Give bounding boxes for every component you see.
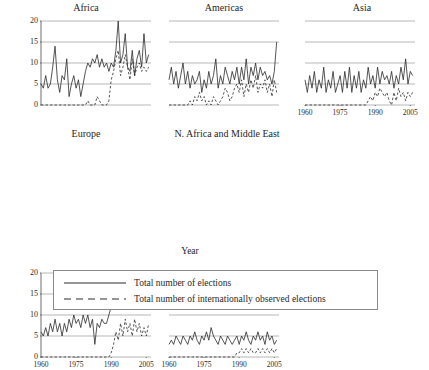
plot-area-africa xyxy=(40,20,152,106)
panel-americas: Americas xyxy=(160,2,288,118)
x-tick-label: 2005 xyxy=(267,360,282,369)
y-tick-label: 5 xyxy=(34,332,38,340)
panel-n-africa-middle-east: N. Africa and Middle East 19601975199020… xyxy=(160,128,300,254)
panel-europe: Europe 05101520 1960197519902005 xyxy=(22,128,150,254)
solid-line-key xyxy=(64,278,126,288)
y-tick-label: 20 xyxy=(30,17,38,25)
panel-title-asia: Asia xyxy=(298,2,426,14)
panel-title-africa: Africa xyxy=(22,2,150,14)
legend-item-observed-elections: Total number of internationally observed… xyxy=(54,292,377,306)
plot-area-asia xyxy=(304,20,416,106)
x-tick-label: 1960 xyxy=(298,108,313,117)
series-line-observed xyxy=(169,349,277,357)
x-tick-label: 1990 xyxy=(232,360,247,369)
y-axis-labels-africa: 05101520 xyxy=(22,20,38,104)
panel-title-n-africa-middle-east: N. Africa and Middle East xyxy=(154,128,300,140)
plot-area-americas xyxy=(168,20,280,106)
y-tick-label: 10 xyxy=(30,59,38,67)
y-tick-label: 15 xyxy=(30,290,38,298)
legend-item-total-elections: Total number of elections xyxy=(54,276,377,290)
x-axis-labels-europe: 1960197519902005 xyxy=(40,360,150,370)
panel-title-europe: Europe xyxy=(22,128,150,140)
legend: Total number of elections Total number o… xyxy=(53,270,378,310)
legend-label-total-elections: Total number of elections xyxy=(134,278,231,288)
panel-africa: Africa 05101520 xyxy=(22,2,150,118)
y-tick-label: 0 xyxy=(34,101,38,109)
x-tick-label: 2005 xyxy=(403,108,418,117)
plot-svg-americas xyxy=(168,20,280,106)
panel-asia: Asia 1960197519902005 xyxy=(298,2,426,128)
x-axis-title: Year xyxy=(150,246,230,256)
x-tick-label: 1960 xyxy=(162,360,177,369)
series-line-observed xyxy=(41,319,149,357)
y-tick-label: 5 xyxy=(34,80,38,88)
x-tick-label: 1975 xyxy=(69,360,84,369)
x-tick-label: 1975 xyxy=(333,108,348,117)
y-tick-label: 15 xyxy=(30,38,38,46)
y-axis-labels-europe: 05101520 xyxy=(22,272,38,356)
x-tick-label: 1990 xyxy=(368,108,383,117)
y-tick-label: 10 xyxy=(30,311,38,319)
plot-svg-africa xyxy=(40,20,152,106)
x-axis-labels-asia: 1960197519902005 xyxy=(304,108,414,118)
legend-label-observed-elections: Total number of internationally observed… xyxy=(134,294,326,304)
series-line-observed xyxy=(305,88,413,105)
panel-title-americas: Americas xyxy=(160,2,288,14)
x-tick-label: 2005 xyxy=(139,360,154,369)
x-tick-label: 1960 xyxy=(34,360,49,369)
x-tick-label: 1990 xyxy=(104,360,119,369)
plot-svg-asia xyxy=(304,20,416,106)
dashed-line-key xyxy=(64,294,126,304)
x-tick-label: 1975 xyxy=(197,360,212,369)
x-axis-labels-n-africa-middle-east: 1960197519902005 xyxy=(168,360,278,370)
series-line-total xyxy=(305,59,413,93)
y-tick-label: 20 xyxy=(30,269,38,277)
